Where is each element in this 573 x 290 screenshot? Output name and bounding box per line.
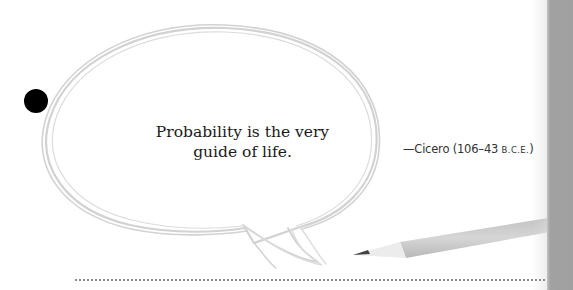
attribution-suffix: ) (529, 142, 533, 156)
attribution-era: B.C.E. (502, 145, 530, 155)
quote-line-1: Probability is the very (140, 122, 345, 142)
bullet-icon (24, 89, 48, 113)
page: Probability is the very guide of life. —… (0, 0, 573, 290)
quote-attribution: —Cicero (106–43 B.C.E.) (403, 142, 534, 156)
page-edge-shadow (532, 0, 547, 290)
dotted-divider (75, 279, 545, 281)
attribution-prefix: —Cicero (106–43 (403, 142, 502, 156)
quote-line-2: guide of life. (140, 142, 345, 162)
chapter-side-tab (547, 0, 573, 290)
quote-text: Probability is the very guide of life. (140, 122, 345, 162)
